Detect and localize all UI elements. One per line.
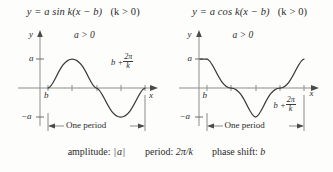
- cosine-period-arrow-right-icon: [297, 123, 304, 128]
- sine-tick-label-a: a: [29, 53, 34, 63]
- cosine-end-label-numerator: 2π: [286, 96, 296, 104]
- panel-cosine: y = a cos k(x − b) (k > 0) a > 0: [167, 0, 333, 140]
- sine-origin-label-b: b: [44, 90, 49, 100]
- sine-y-axis-arrow-icon: [37, 30, 43, 37]
- sine-x-axis-label: x: [149, 90, 153, 100]
- cosine-origin-label-b: b: [203, 90, 208, 100]
- sine-tick-label-neg-a: −a: [21, 111, 32, 121]
- caption-amplitude-bar-close: |: [122, 146, 126, 157]
- sine-y-axis-label: y: [29, 29, 33, 39]
- sine-end-label-base: b +: [111, 57, 123, 67]
- panel-cosine-plot: [167, 0, 333, 140]
- cosine-period-label: One period: [225, 120, 265, 130]
- cosine-y-axis-label: y: [188, 29, 192, 39]
- cosine-end-label-denominator: k: [286, 104, 296, 113]
- caption-phase-value: b: [260, 146, 265, 157]
- caption-period-value: 2π/k: [176, 146, 193, 157]
- caption-period-label: period:: [145, 146, 173, 157]
- cosine-y-axis-arrow-icon: [196, 30, 202, 37]
- figure-panels: y = a sin k(x − b) (k > 0) a > 0: [0, 0, 333, 140]
- cosine-end-label-fraction: 2πk: [286, 96, 296, 113]
- cosine-tick-label-a: a: [188, 53, 193, 63]
- sine-end-label-numerator: 2π: [123, 53, 133, 61]
- caption-phase-label: phase shift:: [212, 146, 258, 157]
- sine-period-label: One period: [66, 120, 106, 130]
- sine-end-label-b-plus-two-pi-over-k: b +2πk: [111, 53, 133, 70]
- cosine-end-label-base: b +: [274, 100, 286, 110]
- sine-end-label-fraction: 2πk: [123, 53, 133, 70]
- cosine-tick-label-neg-a: −a: [180, 111, 191, 121]
- sine-period-arrow-right-icon: [138, 123, 145, 128]
- caption-amplitude-label: amplitude:: [68, 146, 111, 157]
- cosine-period-arrow-left-icon: [207, 123, 214, 128]
- sine-end-label-denominator: k: [123, 61, 133, 70]
- cosine-x-axis-label: x: [310, 88, 314, 98]
- figure-caption: amplitude: |a| period: 2π/k phase shift:…: [0, 146, 333, 157]
- sine-period-arrow-left-icon: [48, 123, 55, 128]
- cosine-end-label-b-plus-two-pi-over-k: b +2πk: [274, 96, 296, 113]
- panel-sine: y = a sin k(x − b) (k > 0) a > 0: [0, 0, 167, 140]
